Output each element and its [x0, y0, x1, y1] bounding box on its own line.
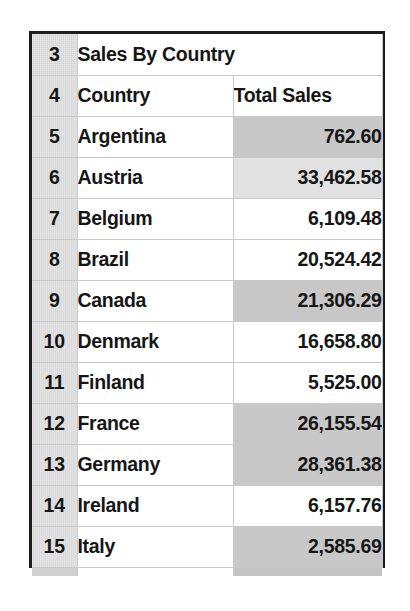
column-header-total-sales[interactable]: Total Sales [233, 75, 382, 116]
cell-total-sales[interactable]: 16,658.80 [233, 321, 382, 362]
cell-country[interactable]: Finland [77, 362, 233, 403]
cell-total-sales[interactable] [233, 567, 382, 576]
table-row: 8Brazil20,524.42 [32, 239, 382, 280]
cell-country[interactable] [77, 567, 233, 576]
row-number-gutter[interactable]: 8 [32, 239, 77, 280]
cell-country[interactable]: Italy [77, 526, 233, 567]
cell-total-sales[interactable]: 6,157.76 [233, 485, 382, 526]
table-row: 5Argentina762.60 [32, 116, 382, 157]
row-number-gutter[interactable]: 9 [32, 280, 77, 321]
sales-by-country-table: 3 Sales By Country 4 Country Total Sales… [32, 34, 383, 576]
cell-total-sales[interactable]: 33,462.58 [233, 157, 382, 198]
cell-total-sales[interactable]: 21,306.29 [233, 280, 382, 321]
table-row: 12France26,155.54 [32, 403, 382, 444]
partial-row [32, 567, 382, 576]
table-row: 14Ireland6,157.76 [32, 485, 382, 526]
cell-country[interactable]: Austria [77, 157, 233, 198]
row-number-gutter[interactable]: 6 [32, 157, 77, 198]
table-row: 9Canada21,306.29 [32, 280, 382, 321]
table-row: 6Austria33,462.58 [32, 157, 382, 198]
cell-country[interactable]: Canada [77, 280, 233, 321]
row-number-gutter[interactable]: 12 [32, 403, 77, 444]
cell-country[interactable]: France [77, 403, 233, 444]
row-number-gutter[interactable] [32, 567, 77, 576]
cell-country[interactable]: Denmark [77, 321, 233, 362]
title-row: 3 Sales By Country [32, 34, 382, 75]
table-row: 15Italy2,585.69 [32, 526, 382, 567]
cell-country[interactable]: Germany [77, 444, 233, 485]
cell-country[interactable]: Argentina [77, 116, 233, 157]
table-row: 13Germany28,361.38 [32, 444, 382, 485]
row-number-gutter[interactable]: 3 [32, 34, 77, 75]
cell-total-sales[interactable]: 6,109.48 [233, 198, 382, 239]
cell-country[interactable]: Belgium [77, 198, 233, 239]
row-number-gutter[interactable]: 11 [32, 362, 77, 403]
cell-total-sales[interactable]: 5,525.00 [233, 362, 382, 403]
spreadsheet-grid[interactable]: 3 Sales By Country 4 Country Total Sales… [29, 31, 385, 568]
table-row: 7Belgium6,109.48 [32, 198, 382, 239]
row-number-gutter[interactable]: 5 [32, 116, 77, 157]
row-number-gutter[interactable]: 7 [32, 198, 77, 239]
cell-total-sales[interactable]: 20,524.42 [233, 239, 382, 280]
row-number-gutter[interactable]: 15 [32, 526, 77, 567]
cell-country[interactable]: Ireland [77, 485, 233, 526]
cell-country[interactable]: Brazil [77, 239, 233, 280]
table-row: 11Finland5,525.00 [32, 362, 382, 403]
row-number-gutter[interactable]: 4 [32, 75, 77, 116]
row-number-gutter[interactable]: 13 [32, 444, 77, 485]
cell-total-sales[interactable]: 2,585.69 [233, 526, 382, 567]
column-header-country[interactable]: Country [77, 75, 233, 116]
sheet-title[interactable]: Sales By Country [77, 34, 382, 75]
header-row: 4 Country Total Sales [32, 75, 382, 116]
cell-total-sales[interactable]: 762.60 [233, 116, 382, 157]
cell-total-sales[interactable]: 28,361.38 [233, 444, 382, 485]
cell-total-sales[interactable]: 26,155.54 [233, 403, 382, 444]
table-row: 10Denmark16,658.80 [32, 321, 382, 362]
row-number-gutter[interactable]: 14 [32, 485, 77, 526]
row-number-gutter[interactable]: 10 [32, 321, 77, 362]
